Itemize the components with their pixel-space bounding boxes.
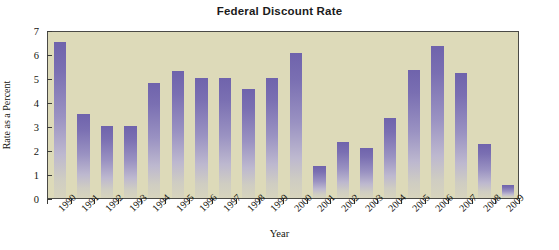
- bar: [408, 70, 420, 198]
- bar: [195, 78, 207, 198]
- bar: [431, 46, 443, 198]
- y-axis: Rate as a Percent 01234567: [0, 31, 47, 199]
- bar: [124, 126, 136, 198]
- bar: [337, 142, 349, 198]
- bar: [360, 148, 372, 198]
- y-axis-tick: [47, 127, 52, 128]
- bar: [266, 78, 278, 198]
- y-axis-tick: [47, 175, 52, 176]
- y-axis-tick-label: 0: [17, 194, 39, 205]
- plot-area: [47, 31, 519, 199]
- chart-container: Federal Discount Rate Rate as a Percent …: [0, 0, 559, 250]
- bar: [384, 118, 396, 198]
- bar: [478, 144, 490, 198]
- chart-title: Federal Discount Rate: [0, 5, 559, 17]
- y-axis-tick-label: 4: [17, 98, 39, 109]
- y-axis-tick-label: 6: [17, 50, 39, 61]
- y-axis-title: Rate as a Percent: [1, 55, 12, 175]
- bar: [148, 83, 160, 198]
- x-axis-title: Year: [0, 228, 559, 239]
- y-axis-tick: [47, 31, 52, 32]
- y-axis-tick: [47, 79, 52, 80]
- bars-layer: [48, 32, 518, 198]
- x-axis-tick: [47, 199, 48, 204]
- bar: [101, 126, 113, 198]
- y-axis-tick-label: 2: [17, 146, 39, 157]
- y-axis-tick: [47, 55, 52, 56]
- bar: [242, 89, 254, 198]
- y-axis-tick-label: 7: [17, 26, 39, 37]
- y-axis-tick-label: 5: [17, 74, 39, 85]
- y-axis-tick-label: 3: [17, 122, 39, 133]
- y-axis-tick: [47, 151, 52, 152]
- bar: [455, 73, 467, 198]
- bar: [77, 114, 89, 198]
- x-axis: 1990199119921993199419951996199719981999…: [47, 199, 519, 247]
- y-axis-tick-label: 1: [17, 170, 39, 181]
- bar: [54, 42, 66, 198]
- bar: [313, 166, 325, 198]
- bar: [172, 71, 184, 198]
- bar: [219, 78, 231, 198]
- bar: [290, 53, 302, 198]
- y-axis-tick: [47, 103, 52, 104]
